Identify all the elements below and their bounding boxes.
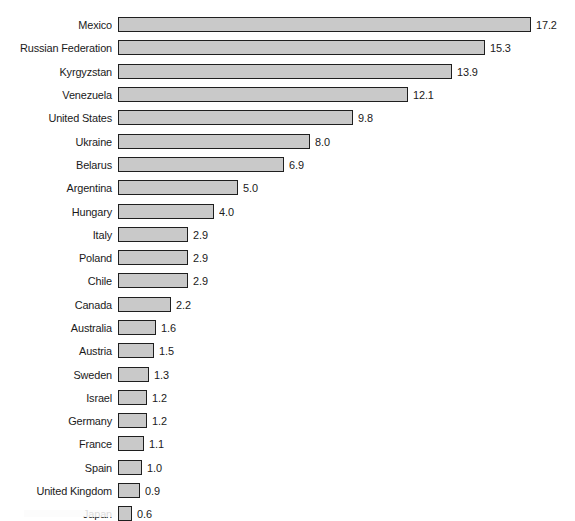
bar-track: 2.2 [118, 293, 575, 316]
bar-track: 1.3 [118, 362, 575, 385]
bar-rect [118, 87, 408, 102]
category-label: Australia [7, 321, 112, 334]
bar-rect [118, 227, 188, 242]
bar-row: United Kingdom0.9 [0, 479, 575, 502]
category-label: Mexico [7, 18, 112, 31]
value-label: 6.9 [289, 158, 304, 171]
value-label: 0.9 [145, 484, 160, 497]
bar-track: 12.1 [118, 83, 575, 106]
bar-track: 13.9 [118, 60, 575, 83]
bar-track: 0.6 [118, 502, 575, 521]
bar-row: Kyrgyzstan13.9 [0, 60, 575, 83]
bar-track: 1.5 [118, 339, 575, 362]
category-label: Hungary [7, 205, 112, 218]
bar-rect [118, 250, 188, 265]
bar-track: 1.2 [118, 409, 575, 432]
category-label: Sweden [7, 368, 112, 381]
bar-row: Russian Federation15.3 [0, 36, 575, 59]
bar-track: 2.9 [118, 223, 575, 246]
bar-track: 1.6 [118, 316, 575, 339]
bar-row: Austria1.5 [0, 339, 575, 362]
category-label: Kyrgyzstan [7, 65, 112, 78]
bar-rect [118, 110, 353, 125]
bar-row: Argentina5.0 [0, 176, 575, 199]
category-label: Poland [7, 251, 112, 264]
bar-track: 9.8 [118, 106, 575, 129]
bar-row: Spain1.0 [0, 456, 575, 479]
bar-row: Ukraine8.0 [0, 129, 575, 152]
category-label: Canada [7, 298, 112, 311]
bar-track: 5.0 [118, 176, 575, 199]
value-label: 12.1 [413, 88, 434, 101]
bar-track: 2.9 [118, 246, 575, 269]
bar-row: Sweden1.3 [0, 362, 575, 385]
bar-rect [118, 273, 188, 288]
category-label: Israel [7, 391, 112, 404]
category-label: Ukraine [7, 135, 112, 148]
bar-track: 1.0 [118, 456, 575, 479]
bar-rect [118, 320, 156, 335]
bar-row: Hungary4.0 [0, 199, 575, 222]
bar-row: Israel1.2 [0, 386, 575, 409]
bar-rows-container: Mexico17.2Russian Federation15.3Kyrgyzst… [0, 13, 575, 521]
bar-rect [118, 436, 144, 451]
bar-rect [118, 64, 452, 79]
category-label: Venezuela [7, 88, 112, 101]
bar-row: Italy2.9 [0, 223, 575, 246]
bar-row: Germany1.2 [0, 409, 575, 432]
bar-rect [118, 483, 140, 498]
category-label: Argentina [7, 181, 112, 194]
value-label: 8.0 [315, 135, 330, 148]
bar-rect [118, 204, 214, 219]
value-label: 2.9 [193, 228, 208, 241]
value-label: 4.0 [219, 205, 234, 218]
bar-rect [118, 17, 531, 32]
bar-rect [118, 180, 238, 195]
value-label: 1.2 [152, 391, 167, 404]
value-label: 0.6 [137, 507, 152, 520]
bar-track: 2.9 [118, 269, 575, 292]
category-label: United States [7, 111, 112, 124]
bar-rect [118, 40, 485, 55]
category-label: Russian Federation [7, 41, 112, 54]
bar-rect [118, 460, 142, 475]
value-label: 1.5 [159, 344, 174, 357]
value-label: 17.2 [536, 18, 557, 31]
bar-rect [118, 157, 284, 172]
bar-track: 1.2 [118, 386, 575, 409]
bar-row: Chile2.9 [0, 269, 575, 292]
bar-row: Belarus6.9 [0, 153, 575, 176]
bar-track: 15.3 [118, 36, 575, 59]
value-label: 1.0 [147, 461, 162, 474]
value-label: 5.0 [243, 181, 258, 194]
value-label: 2.9 [193, 251, 208, 264]
category-label: Belarus [7, 158, 112, 171]
value-label: 1.3 [154, 368, 169, 381]
bar-track: 6.9 [118, 153, 575, 176]
bar-track: 4.0 [118, 199, 575, 222]
bar-track: 1.1 [118, 432, 575, 455]
bar-track: 0.9 [118, 479, 575, 502]
horizontal-bar-chart: Mexico17.2Russian Federation15.3Kyrgyzst… [0, 0, 575, 521]
bar-rect [118, 413, 147, 428]
value-label: 2.2 [176, 298, 191, 311]
bar-track: 8.0 [118, 129, 575, 152]
category-label: United Kingdom [7, 484, 112, 497]
category-label: Germany [7, 414, 112, 427]
bar-row: United States9.8 [0, 106, 575, 129]
bar-rect [118, 134, 310, 149]
category-label: France [7, 437, 112, 450]
value-label: 13.9 [457, 65, 478, 78]
bar-row: Mexico17.2 [0, 13, 575, 36]
value-label: 9.8 [358, 111, 373, 124]
bar-rect [118, 343, 154, 358]
scan-artifact [24, 510, 116, 517]
category-label: Spain [7, 461, 112, 474]
value-label: 1.6 [161, 321, 176, 334]
bar-rect [118, 297, 171, 312]
bar-rect [118, 390, 147, 405]
bar-rect [118, 506, 132, 521]
value-label: 15.3 [490, 41, 511, 54]
value-label: 1.2 [152, 414, 167, 427]
bar-row: France1.1 [0, 432, 575, 455]
